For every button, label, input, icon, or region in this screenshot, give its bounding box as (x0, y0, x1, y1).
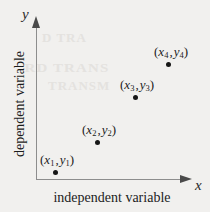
x-axis-title: independent variable (36, 190, 188, 206)
y-axis-title: dependent variable (12, 28, 28, 180)
y-axis-arrowhead-icon (32, 16, 40, 28)
scan-showthrough-artifact: D TRA (42, 30, 87, 46)
data-point (133, 95, 138, 100)
x-axis-line (36, 179, 188, 180)
y-axis-line (36, 26, 37, 180)
data-point-label: (x4,y4) (154, 44, 188, 60)
data-point-label: (x3,y3) (120, 77, 154, 93)
data-point (95, 140, 100, 145)
data-point (53, 170, 58, 175)
scan-showthrough-artifact: TRANSM (48, 78, 110, 94)
data-point-label: (x1,y1) (40, 152, 74, 168)
data-point (166, 62, 171, 67)
scatter-plot-figure: D TRA RD TRANS TRANSM y x independent va… (0, 0, 210, 212)
data-point-label: (x2,y2) (82, 122, 116, 138)
x-axis-symbol: x (195, 177, 202, 194)
y-axis-symbol: y (22, 6, 29, 23)
x-axis-arrowhead-icon (180, 175, 192, 183)
scan-showthrough-artifact: RD TRANS (24, 60, 109, 76)
